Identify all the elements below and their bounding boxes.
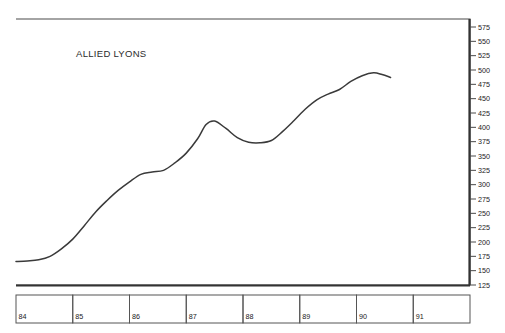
- y-tick-label: 425: [478, 109, 490, 118]
- chart-canvas: 1251501752002252502753003253503754004254…: [0, 0, 505, 333]
- y-tick-label: 550: [478, 37, 490, 46]
- y-tick-label: 225: [478, 223, 490, 232]
- y-tick-label: 525: [478, 51, 490, 60]
- y-tick-label: 400: [478, 123, 490, 132]
- y-tick-label: 275: [478, 195, 490, 204]
- y-tick-label: 200: [478, 238, 490, 247]
- y-tick-label: 350: [478, 152, 490, 161]
- x-tick-label: 86: [132, 312, 140, 321]
- y-tick-label: 175: [478, 252, 490, 261]
- x-tick-label: 85: [75, 312, 83, 321]
- y-tick-label: 575: [478, 23, 490, 32]
- y-tick-label: 250: [478, 209, 490, 218]
- y-tick-label: 475: [478, 80, 490, 89]
- x-tick-label: 88: [246, 312, 254, 321]
- chart-title: ALLIED LYONS: [76, 48, 146, 59]
- y-tick-label: 450: [478, 94, 490, 103]
- x-tick-label: 89: [302, 312, 310, 321]
- y-tick-label: 325: [478, 166, 490, 175]
- x-tick-label: 90: [359, 312, 367, 321]
- y-tick-label: 150: [478, 266, 490, 275]
- x-tick-label: 87: [189, 312, 197, 321]
- y-tick-label: 300: [478, 180, 490, 189]
- x-tick-label: 84: [19, 312, 27, 321]
- x-tick-label: 91: [416, 312, 424, 321]
- x-axis-band: 8485868788899091: [16, 295, 470, 323]
- price-line-series: [16, 73, 391, 262]
- y-tick-label: 500: [478, 66, 490, 75]
- y-axis-ticks: 1251501752002252502753003253503754004254…: [470, 23, 490, 290]
- y-tick-label: 375: [478, 137, 490, 146]
- y-tick-label: 125: [478, 281, 490, 290]
- stock-price-chart: 1251501752002252502753003253503754004254…: [0, 0, 505, 333]
